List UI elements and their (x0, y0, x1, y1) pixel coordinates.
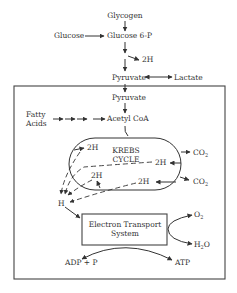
2h-glycolysis-label: 2H (142, 55, 154, 64)
atp-label: ATP (174, 258, 190, 267)
arrow-to-2h (128, 56, 139, 60)
krebs-label-2: CYCLE (113, 155, 140, 164)
co2-a-label: CO2 (193, 148, 208, 158)
arrow-h-to-ets (65, 207, 80, 218)
arrow-to-2h-c (97, 181, 100, 188)
acetylcoa-to-krebs (125, 126, 128, 136)
glucose-6p-label: Glucose 6-P (107, 31, 152, 40)
2h-d-label: 2H (138, 177, 150, 186)
dashed-2h-d-to-h (70, 183, 136, 202)
arrow-to-co2-b (180, 177, 189, 180)
metabolism-diagram: Glycogen Glucose Glucose 6-P 2H Pyruvate… (0, 0, 237, 293)
glycogen-label: Glycogen (107, 11, 143, 20)
adp-label: ADP + P (64, 258, 98, 267)
pyruvate-top-label: Pyruvate (112, 73, 146, 82)
krebs-label-1: KREBS (112, 146, 139, 155)
lactate-label: Lactate (174, 73, 203, 82)
dashed-2h-c-to-h (68, 180, 92, 195)
glucose-label: Glucose (54, 31, 85, 40)
h-label: H (58, 199, 65, 208)
o2-label: O2 (194, 210, 203, 220)
2h-c-label: 2H (91, 171, 103, 180)
ets-label-2: System (111, 229, 139, 238)
arrow-to-2h-a (74, 148, 84, 150)
arrow-ets-o2-h2o (168, 215, 192, 244)
pyruvate-mito-label: Pyruvate (112, 93, 146, 102)
fatty-acids-label-1: Fatty (26, 110, 46, 119)
2h-b-label: 2H (155, 158, 167, 167)
fatty-acids-label-2: Acids (25, 119, 47, 128)
ets-label-1: Electron Transport (89, 220, 162, 229)
co2-b-label: CO2 (193, 177, 208, 187)
2h-a-label: 2H (87, 143, 99, 152)
acetyl-coa-label: Acetyl CoA (106, 114, 149, 123)
h2o-label: H2O (194, 240, 210, 250)
